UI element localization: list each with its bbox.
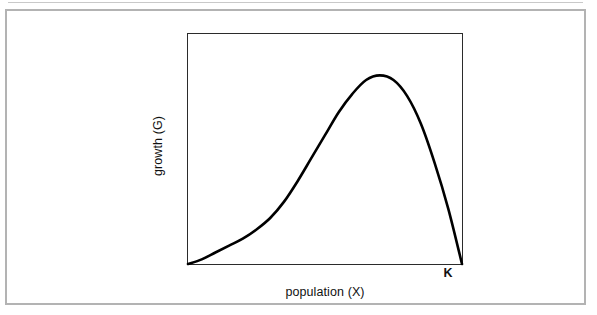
growth-curve-path — [188, 75, 462, 264]
carrying-capacity-label: K — [443, 266, 452, 280]
scan-artifact-line — [8, 2, 583, 3]
x-axis-label: population (X) — [285, 285, 364, 299]
growth-curve-svg — [188, 34, 462, 264]
figure-frame: growth (G) population (X) K — [5, 9, 586, 305]
y-axis-label: growth (G) — [151, 116, 165, 176]
plot-area — [187, 33, 463, 265]
